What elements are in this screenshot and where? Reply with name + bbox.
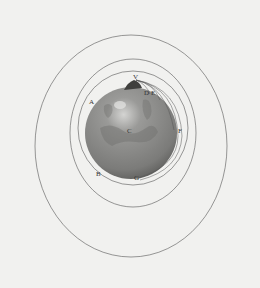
- label-B: B: [96, 170, 101, 178]
- label-D: D: [144, 89, 149, 97]
- cannonball-diagram: V D E A C F B G: [0, 0, 260, 288]
- label-C: C: [127, 127, 132, 135]
- label-A: A: [89, 98, 94, 106]
- label-V: V: [133, 73, 138, 81]
- label-F: F: [178, 127, 182, 135]
- label-E: E: [151, 89, 155, 97]
- label-G: G: [134, 174, 139, 182]
- globe-highlight: [114, 101, 126, 109]
